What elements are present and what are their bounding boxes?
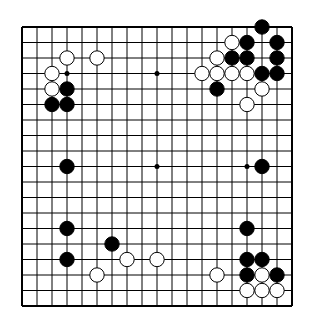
- white-stone: [255, 268, 269, 282]
- black-stone: [210, 82, 224, 96]
- black-stone: [255, 20, 269, 34]
- white-stone: [90, 51, 104, 65]
- white-stone: [210, 66, 224, 80]
- black-stone: [270, 66, 284, 80]
- white-stone: [240, 283, 254, 297]
- black-stone: [270, 51, 284, 65]
- black-stone: [255, 66, 269, 80]
- white-stone: [150, 252, 164, 266]
- white-stone: [90, 268, 104, 282]
- white-stone: [210, 51, 224, 65]
- stones-layer: [45, 20, 284, 298]
- black-stone: [60, 159, 74, 173]
- black-stone: [240, 51, 254, 65]
- black-stone: [225, 51, 239, 65]
- white-stone: [210, 268, 224, 282]
- black-stone: [255, 252, 269, 266]
- star-point: [65, 71, 70, 76]
- white-stone: [240, 66, 254, 80]
- black-stone: [60, 82, 74, 96]
- white-stone: [240, 97, 254, 111]
- black-stone: [45, 97, 59, 111]
- black-stone: [60, 252, 74, 266]
- white-stone: [45, 82, 59, 96]
- black-stone: [105, 237, 119, 251]
- black-stone: [60, 221, 74, 235]
- white-stone: [60, 51, 74, 65]
- star-point: [245, 164, 250, 169]
- black-stone: [270, 35, 284, 49]
- go-board: [0, 0, 311, 322]
- black-stone: [60, 97, 74, 111]
- white-stone: [120, 252, 134, 266]
- white-stone: [45, 66, 59, 80]
- black-stone: [240, 221, 254, 235]
- white-stone: [195, 66, 209, 80]
- black-stone: [240, 268, 254, 282]
- black-stone: [270, 268, 284, 282]
- star-point: [155, 71, 160, 76]
- white-stone: [225, 35, 239, 49]
- black-stone: [240, 35, 254, 49]
- black-stone: [240, 252, 254, 266]
- white-stone: [225, 66, 239, 80]
- white-stone: [255, 82, 269, 96]
- white-stone: [270, 283, 284, 297]
- white-stone: [255, 283, 269, 297]
- black-stone: [255, 159, 269, 173]
- star-point: [155, 164, 160, 169]
